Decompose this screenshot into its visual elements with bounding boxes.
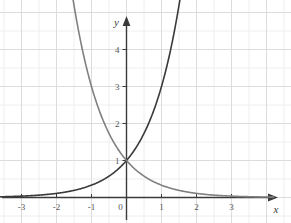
y-tick-label-1: 1 [115,156,120,166]
y-tick-label-2: 2 [115,119,120,129]
x-tick-label-0: 0 [118,202,123,212]
x-tick-label-neg2: -2 [53,202,61,212]
x-tick-label-2: 2 [194,202,199,212]
y-tick-label-4: 4 [115,45,120,55]
exponential-functions-chart: -3-2-101231234 yx [0,0,291,223]
y-tick-label-3: 3 [115,82,120,92]
x-tick-label-neg3: -3 [18,202,26,212]
chart-canvas: -3-2-101231234 yx [0,0,291,223]
x-tick-label-neg1: -1 [88,202,96,212]
x-tick-label-1: 1 [159,202,164,212]
y-axis-title: y [113,16,119,28]
x-tick-label-3: 3 [229,202,234,212]
chart-background [0,0,291,223]
x-axis-title: x [273,203,279,215]
